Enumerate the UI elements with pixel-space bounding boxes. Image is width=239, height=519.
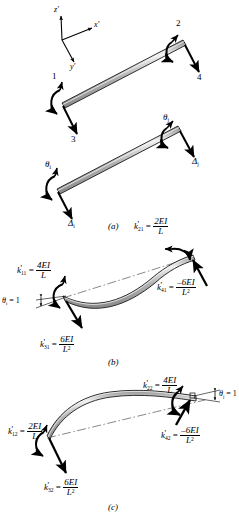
coefficient-k42: k'42 = –6EIL2 xyxy=(161,426,200,445)
unit-rotation-marker-b xyxy=(36,296,66,308)
force-arrow-delta-j xyxy=(180,131,194,157)
coefficient-k41: k'41 = –6EIL2 xyxy=(157,278,196,297)
theta-i-label: θi xyxy=(45,160,51,170)
moment-arrow-1 xyxy=(51,82,62,114)
axis-label-x: x' xyxy=(94,21,99,29)
coefficient-k31: k'31 = 6EIL2 xyxy=(40,335,74,354)
dof-label-1: 1 xyxy=(52,72,57,81)
coefficient-k32: k'32 = 6EIL2 xyxy=(44,478,78,497)
force-arrow-delta-i xyxy=(58,192,72,219)
unit-rotation-label-c: θj = 1 xyxy=(219,390,237,400)
dof-label-2: 2 xyxy=(176,19,181,28)
moment-arrow-k11 xyxy=(54,276,65,308)
force-arrow-k32 xyxy=(49,438,66,473)
panel-caption-b: (b) xyxy=(108,358,119,367)
moment-arrow-theta-i xyxy=(46,168,57,200)
coefficient-k21: k'21 = 2EIL xyxy=(134,217,168,236)
panel-caption-a: (a) xyxy=(108,222,119,231)
coefficient-k12: k'12 = 2EIL xyxy=(8,422,42,441)
axis-label-z: z' xyxy=(54,6,59,14)
dof-label-3: 3 xyxy=(71,135,76,144)
force-arrow-3 xyxy=(63,106,77,134)
coefficient-k22: k'22 = 4EIL xyxy=(143,376,177,395)
unit-rotation-label-b: θi = 1 xyxy=(2,297,20,307)
force-arrow-4 xyxy=(185,45,199,72)
delta-i-label: Δi xyxy=(68,219,75,229)
dof-label-4: 4 xyxy=(197,73,202,82)
delta-j-label: Δj xyxy=(192,157,199,167)
panel-a xyxy=(46,16,199,219)
theta-j-label: θj xyxy=(163,113,169,123)
force-arrow-k42 xyxy=(176,400,190,425)
panel-caption-c: (c) xyxy=(108,503,118,512)
coordinate-axes xyxy=(61,16,92,62)
coefficient-k11: k'11 = 4EIL xyxy=(17,261,51,280)
axis-label-y: y' xyxy=(70,63,75,71)
